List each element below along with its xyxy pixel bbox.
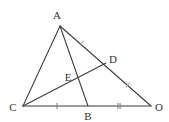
vertex-label-E: E (65, 72, 72, 83)
vertex-label-A: A (53, 10, 61, 21)
vertex-label-D: D (109, 54, 117, 65)
geometry-figure: A C O B D E (0, 0, 169, 122)
segment-CA (23, 26, 60, 106)
geometry-canvas (0, 0, 169, 122)
vertex-label-O: O (155, 102, 163, 113)
vertex-label-B: B (84, 111, 91, 122)
vertex-label-C: C (9, 102, 16, 113)
segments-group (23, 26, 151, 106)
segment-CD (23, 63, 106, 106)
